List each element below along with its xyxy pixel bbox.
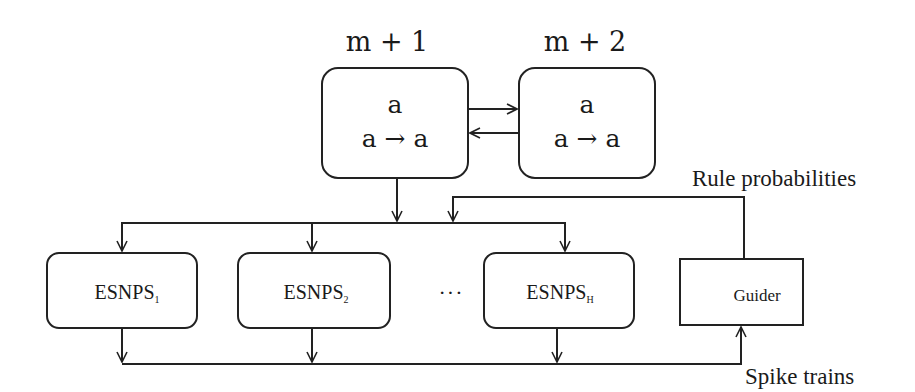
- neuron-m2-label: m + 2: [544, 26, 627, 57]
- neuron-m1-rule: a → a: [322, 122, 468, 156]
- neuron-m2-spikes: a: [519, 88, 655, 122]
- diagram-lines: [0, 0, 915, 392]
- neuron-m2-content: a a → a: [519, 88, 655, 156]
- spike-trains-label: Spike trains: [745, 364, 854, 390]
- neuron-m1-content: a a → a: [322, 88, 468, 156]
- rule-probabilities-label: Rule probabilities: [692, 166, 856, 192]
- neuron-m1-label: m + 1: [346, 26, 429, 57]
- neuron-m1-spikes: a: [322, 88, 468, 122]
- guider-label: Guider: [733, 286, 780, 306]
- esnps-1-label: ESNPS1: [94, 281, 159, 305]
- ellipsis: ···: [439, 280, 464, 306]
- esnps-2-label: ESNPS2: [283, 281, 348, 305]
- neuron-m2-rule: a → a: [519, 122, 655, 156]
- esnps-h-label: ESNPSH: [526, 281, 593, 305]
